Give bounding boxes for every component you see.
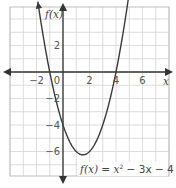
axes [3,3,173,184]
x-tick-label: 4 [113,75,119,86]
x-tick-label: 6 [139,75,145,86]
y-tick-label: −2 [45,93,60,104]
x-tick-label: 2 [86,75,92,86]
y-tick-label: 2 [54,40,60,51]
y-axis-label: f(x) [44,8,63,20]
svg-text:f(x) = x2 − 3x − 4: f(x) = x2 − 3x − 4 [79,163,174,175]
function-graph: −202462−2−4−6 f(x) x f(x) = x2 − 3x − 4 [0,0,176,188]
x-axis-label: x [163,75,169,87]
x-tick-label: 0 [54,75,60,86]
y-tick-label: −6 [45,146,60,157]
x-tick-label: −2 [29,75,44,86]
function-equation-label: f(x) = x2 − 3x − 4 [78,162,174,176]
y-tick-label: −4 [45,120,60,131]
